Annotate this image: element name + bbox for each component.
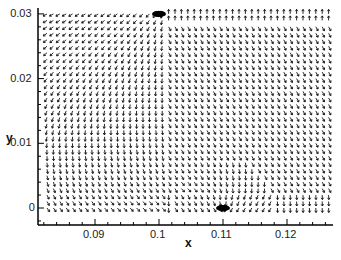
- y-tick-label: 0: [29, 201, 35, 213]
- y-axis-title: y: [6, 131, 13, 145]
- x-tick-label: 0.11: [211, 228, 232, 240]
- plot-axes: [38, 8, 333, 225]
- vector-arrows: [43, 9, 331, 212]
- y-tick-label: 0.01: [10, 136, 31, 148]
- x-axis-title: x: [185, 236, 192, 250]
- x-tick-label: 0.12: [275, 228, 296, 240]
- x-tick-label: 0.09: [83, 228, 104, 240]
- x-tick-label: 0.1: [150, 228, 165, 240]
- y-tick-label: 0.03: [10, 7, 31, 19]
- vector-plot: [0, 0, 341, 260]
- y-tick-label: 0.02: [10, 72, 31, 84]
